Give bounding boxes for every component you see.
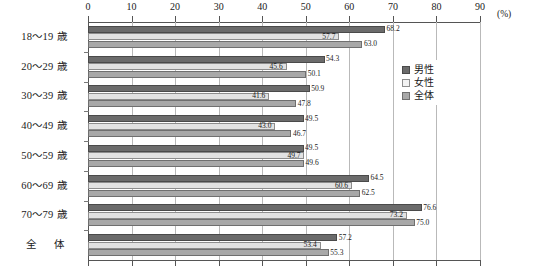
tick-bottom-20: [175, 260, 176, 266]
bar-total-5: [88, 190, 360, 197]
axis-unit-label: (%): [497, 9, 511, 19]
gridline-80: [436, 22, 437, 260]
bar-value-label-female-7: 53.4: [304, 241, 317, 249]
tick-bottom-30: [219, 260, 220, 266]
bar-female-1: [88, 63, 287, 70]
bar-value-label-total-5: 62.5: [362, 189, 375, 197]
legend-swatch-total-icon: [402, 92, 410, 100]
bar-value-label-female-0: 57.7: [322, 33, 335, 41]
bar-total-0: [88, 41, 362, 48]
tick-top-20: [175, 16, 176, 22]
bar-value-label-male-2: 50.9: [311, 85, 324, 93]
y-category-label-6: 70～79 歳: [4, 209, 84, 220]
group-separator-3: [84, 111, 89, 112]
bar-value-label-total-6: 75.0: [416, 219, 429, 227]
bar-value-label-female-2: 41.6: [252, 92, 265, 100]
legend-swatch-female-icon: [402, 79, 410, 87]
tick-bottom-0: [88, 260, 89, 266]
tick-bottom-60: [349, 260, 350, 266]
tick-top-0: [88, 16, 89, 22]
x-tick-label-70: 70: [388, 2, 398, 12]
tick-bottom-80: [436, 260, 437, 266]
bar-total-2: [88, 100, 296, 107]
bar-chart: 0102030405060708090 (%) 18～19 歳20～29 歳30…: [0, 0, 537, 270]
bar-value-label-female-5: 60.6: [335, 182, 348, 190]
group-separator-4: [84, 141, 89, 142]
bar-female-5: [88, 182, 352, 189]
x-tick-label-60: 60: [344, 2, 354, 12]
x-tick-label-10: 10: [127, 2, 137, 12]
bar-value-label-total-7: 55.3: [330, 249, 343, 257]
bar-male-0: [88, 26, 385, 33]
bar-value-label-total-1: 50.1: [308, 70, 321, 78]
y-category-label-3: 40～49 歳: [4, 120, 84, 131]
bar-female-7: [88, 242, 321, 249]
chart-legend: 男性 女性 全体: [398, 60, 480, 105]
bar-value-label-total-4: 49.6: [306, 159, 319, 167]
bar-total-4: [88, 160, 304, 167]
x-tick-label-40: 40: [257, 2, 267, 12]
bar-female-2: [88, 93, 269, 100]
bar-female-3: [88, 123, 275, 130]
bar-value-label-female-1: 45.6: [270, 63, 283, 71]
tick-top-80: [436, 16, 437, 22]
legend-swatch-male-icon: [402, 66, 410, 74]
x-tick-label-90: 90: [475, 2, 485, 12]
bar-total-7: [88, 249, 329, 256]
legend-label-male: 男性: [414, 63, 434, 76]
x-tick-label-0: 0: [86, 2, 91, 12]
tick-bottom-90: [480, 260, 481, 266]
axis-top-line: [88, 22, 480, 23]
y-category-label-2: 30～39 歳: [4, 90, 84, 101]
bar-male-2: [88, 85, 310, 92]
bar-male-1: [88, 56, 325, 63]
x-tick-label-30: 30: [214, 2, 224, 12]
bar-female-0: [88, 33, 339, 40]
bar-value-label-female-3: 43.0: [258, 122, 271, 130]
tick-bottom-40: [262, 260, 263, 266]
bar-female-4: [88, 152, 304, 159]
bar-male-7: [88, 234, 337, 241]
bar-value-label-male-6: 76.6: [423, 204, 436, 212]
group-separator-1: [84, 52, 89, 53]
bar-male-3: [88, 115, 304, 122]
tick-top-30: [219, 16, 220, 22]
tick-top-40: [262, 16, 263, 22]
bar-value-label-total-0: 63.0: [364, 40, 377, 48]
bar-value-label-male-4: 49.5: [305, 144, 318, 152]
bar-total-1: [88, 71, 306, 78]
bar-value-label-total-3: 46.7: [293, 130, 306, 138]
x-tick-label-20: 20: [170, 2, 180, 12]
y-category-label-0: 18～19 歳: [4, 31, 84, 42]
bar-male-5: [88, 175, 369, 182]
gridline-90: [480, 22, 481, 260]
y-category-label-7: 全 体: [4, 239, 87, 250]
tick-bottom-10: [132, 260, 133, 266]
bar-value-label-male-5: 64.5: [370, 174, 383, 182]
y-category-label-5: 60～69 歳: [4, 180, 84, 191]
tick-top-10: [132, 16, 133, 22]
x-tick-label-80: 80: [431, 2, 441, 12]
bar-total-6: [88, 219, 415, 226]
bar-total-3: [88, 130, 291, 137]
bar-value-label-male-3: 49.5: [305, 115, 318, 123]
legend-item-total: 全体: [402, 89, 476, 102]
legend-item-female: 女性: [402, 76, 476, 89]
bar-male-4: [88, 145, 304, 152]
tick-bottom-70: [393, 260, 394, 266]
axis-bottom-line: [88, 260, 480, 261]
group-separator-2: [84, 82, 89, 83]
bar-value-label-male-7: 57.2: [339, 234, 352, 242]
bar-value-label-female-6: 73.2: [390, 211, 403, 219]
bar-female-6: [88, 212, 407, 219]
bar-male-6: [88, 204, 422, 211]
bar-value-label-male-0: 68.2: [387, 25, 400, 33]
group-separator-7: [84, 230, 89, 231]
legend-item-male: 男性: [402, 63, 476, 76]
bar-value-label-female-4: 49.7: [287, 152, 300, 160]
tick-top-60: [349, 16, 350, 22]
x-tick-label-50: 50: [301, 2, 311, 12]
legend-label-female: 女性: [414, 76, 434, 89]
legend-label-total: 全体: [414, 89, 434, 102]
y-category-label-4: 50～59 歳: [4, 150, 84, 161]
